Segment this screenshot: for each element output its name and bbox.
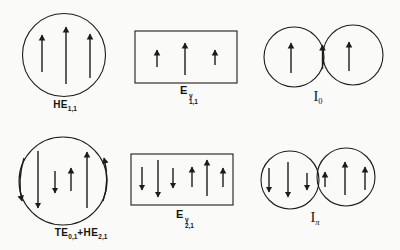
te01-he21-mode-field-arrow — [20, 158, 24, 201]
he21-main: +HE — [77, 227, 98, 238]
label-he11: HE1,1 — [53, 100, 77, 113]
fiber-mode-diagram: HE1,1 Ey1,1 I0 TE0,1+HE2,1 Ey2,1 Iπ — [0, 0, 400, 250]
he11-mode-circle-outline — [23, 14, 106, 97]
i0-supermode-circle-outline — [264, 27, 324, 87]
label-i0: I0 — [313, 89, 322, 106]
he21-subscript: 2,1 — [98, 233, 107, 240]
he11-main: HE — [53, 99, 68, 110]
label-ey11: Ey1,1 — [180, 85, 198, 105]
te01-main: TE — [55, 227, 69, 238]
ey11-subscript: 1,1 — [189, 99, 198, 105]
te01-he21-mode-circle-outline — [19, 137, 107, 225]
label-ipi: Iπ — [310, 210, 319, 227]
label-te01-he21: TE0,1+HE2,1 — [55, 228, 108, 241]
ey21-scripts: y2,1 — [185, 217, 194, 229]
i0-supermode-circle-outline — [323, 25, 383, 85]
diagram-canvas — [0, 0, 400, 250]
he11-subscript: 1,1 — [68, 105, 77, 112]
ey21-mode-rect-outline — [131, 154, 233, 205]
ey21-subscript: 2,1 — [185, 223, 194, 229]
ipi-subscript: π — [315, 217, 319, 227]
label-ey21: Ey2,1 — [176, 209, 194, 229]
ey11-mode-rect-outline — [135, 31, 237, 83]
i0-subscript: 0 — [318, 96, 322, 106]
ey21-main: E — [176, 208, 183, 220]
ey11-main: E — [180, 84, 187, 96]
ey11-scripts: y1,1 — [189, 93, 198, 105]
te01-subscript: 0,1 — [68, 233, 77, 240]
